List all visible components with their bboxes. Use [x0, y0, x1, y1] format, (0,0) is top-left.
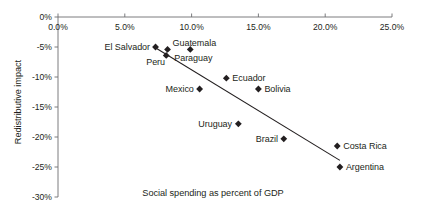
point-label: Ecuador [232, 73, 265, 83]
point-label: Mexico [166, 84, 194, 94]
point-label: Peru [146, 57, 165, 67]
data-point-marker [235, 120, 242, 127]
point-label: Bolivia [264, 84, 290, 94]
y-tick-label: -25% [18, 162, 52, 172]
x-tick-label: 10.0% [169, 22, 215, 32]
point-label: Paraguay [174, 53, 212, 63]
scatter-chart: 0%-5%-10%-15%-20%-25%-30% 0.0%5.0%10.0%1… [0, 0, 426, 214]
data-point-marker [280, 135, 287, 142]
x-tick-label: 15.0% [235, 22, 281, 32]
plot-canvas [0, 0, 426, 214]
x-tick-label: 0.0% [35, 22, 81, 32]
point-label: Argentina [346, 162, 384, 172]
point-label: Guatemala [173, 38, 217, 48]
trendline [154, 47, 340, 160]
data-point-marker [196, 86, 203, 93]
point-label: El Salvador [105, 42, 150, 52]
y-axis-title: Redistributive impact [13, 32, 23, 172]
data-point-marker [336, 164, 343, 171]
point-label: Costa Rica [343, 141, 387, 151]
y-tick-label: -10% [18, 72, 52, 82]
y-tick-label: 0% [18, 12, 52, 22]
x-axis-title: Social spending as percent of GDP [0, 188, 426, 198]
y-tick-label: -20% [18, 132, 52, 142]
x-tick-label: 20.0% [302, 22, 348, 32]
x-tick-label: 5.0% [102, 22, 148, 32]
data-point-marker [223, 75, 230, 82]
point-label: Brazil [256, 134, 278, 144]
point-label: Uruguay [198, 119, 232, 129]
data-point-marker [164, 46, 171, 53]
data-point-marker [255, 86, 262, 93]
y-tick-label: -5% [18, 42, 52, 52]
x-tick-label: 25.0% [369, 22, 415, 32]
data-point-marker [334, 143, 341, 150]
trendline-segment [154, 47, 340, 160]
y-tick-label: -15% [18, 102, 52, 112]
